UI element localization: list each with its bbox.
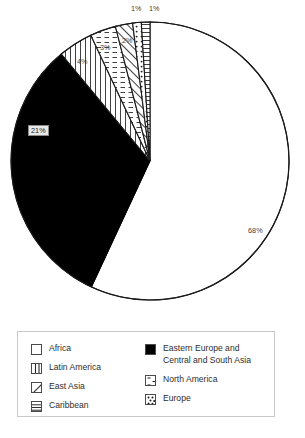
pie-label-africa: 68% [248,227,263,234]
pie-label-east-asia: 2% [122,37,133,44]
pie-label-north-america: 3% [100,44,111,51]
legend-label-latin-america: Latin America [49,362,101,374]
pie-label-caribbean: 1% [131,5,142,12]
legend-item-north-america[interactable]: North America [145,374,251,388]
legend-item-latin-america[interactable]: Latin America [31,362,101,376]
legend-column-right: Eastern Europe and Central and South Asi… [145,343,251,412]
pie-chart-figure: 1% 1% 2% 3% 4% 21% 68% Africa [0,0,305,438]
diagonal-lines-swatch-icon [31,382,42,393]
legend-label-east-asia: East Asia [49,381,85,393]
legend-item-africa[interactable]: Africa [31,343,101,357]
legend-label-europe: Europe [163,393,191,405]
legend-column-left: Africa Latin America [31,343,101,419]
legend-item-east-asia[interactable]: East Asia [31,381,101,395]
chart-legend: Africa Latin America [17,331,275,417]
pie-label-latin-america: 4% [77,58,88,65]
blank-swatch-icon [31,344,42,355]
legend-item-eastern-europe-central-south-asia[interactable]: Eastern Europe and Central and South Asi… [145,343,251,368]
legend-label-africa: Africa [49,343,71,355]
legend-item-caribbean[interactable]: Caribbean [31,400,101,414]
pie-chart-svg [0,0,305,312]
dashes-swatch-icon [145,375,156,386]
dots-swatch-icon [145,394,156,405]
horizontal-lines-swatch-icon [31,401,42,412]
pie-label-eastern-europe-central-south-asia: 21% [28,125,49,136]
vertical-lines-swatch-icon [31,363,42,374]
black-fill-swatch-icon [145,344,156,355]
pie-chart-plot-area: 1% 1% 2% 3% 4% 21% 68% [0,0,305,312]
legend-label-caribbean: Caribbean [49,400,89,412]
legend-label-eastern-europe-central-south-asia: Eastern Europe and Central and South Asi… [163,343,251,366]
legend-item-europe[interactable]: Europe [145,393,251,407]
legend-label-north-america: North America [163,374,217,386]
pie-label-europe: 1% [149,5,160,12]
